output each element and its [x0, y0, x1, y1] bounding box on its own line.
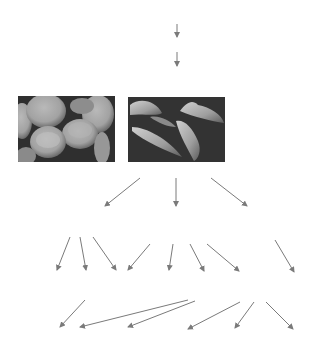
arrow-icon — [207, 244, 239, 271]
arrow-icon — [169, 244, 173, 270]
arrow-icon — [80, 237, 86, 270]
arrow-icon — [128, 301, 195, 327]
arrow-icon — [188, 302, 240, 329]
arrow-icon — [190, 244, 204, 271]
arrow-icon — [128, 244, 150, 270]
normal-red-blood-cells-image — [18, 96, 115, 162]
arrow-icon — [275, 240, 294, 272]
arrow-icon — [211, 178, 247, 206]
arrow-icon — [266, 302, 293, 329]
arrow-icon — [235, 302, 254, 328]
arrow-icon — [105, 178, 140, 206]
arrow-layer — [0, 0, 312, 351]
sickle-cells-image — [128, 97, 225, 162]
arrow-icon — [93, 237, 116, 270]
flow-diagram — [0, 0, 312, 351]
arrow-icon — [80, 300, 188, 327]
arrow-icon — [60, 300, 85, 327]
arrow-icon — [57, 237, 70, 270]
